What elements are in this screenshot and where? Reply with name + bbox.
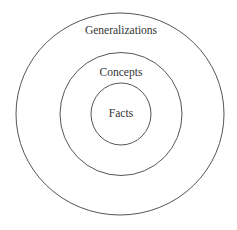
label-concepts: Concepts bbox=[100, 66, 143, 79]
label-generalizations: Generalizations bbox=[85, 24, 158, 36]
label-facts: Facts bbox=[109, 107, 134, 119]
concentric-diagram: Generalizations Concepts Facts bbox=[0, 0, 237, 230]
